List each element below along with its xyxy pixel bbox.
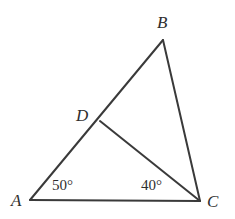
angle-label-dca: 40° (141, 178, 162, 193)
geometry-figure: A B C D 50° 40° (0, 0, 235, 219)
vertex-label-b: B (157, 14, 167, 31)
vertex-label-d: D (76, 107, 88, 124)
vertex-label-c: C (207, 193, 218, 210)
figure-canvas (0, 0, 235, 219)
segment-ac (30, 200, 200, 201)
segment-ab (30, 40, 163, 200)
angle-label-bac: 50° (52, 178, 73, 193)
vertex-label-a: A (11, 192, 21, 209)
